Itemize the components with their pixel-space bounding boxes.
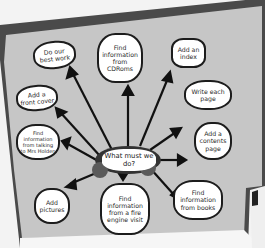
node-books: Find information from books: [173, 180, 223, 220]
node-label: Add an index: [175, 46, 202, 60]
node-mrs-holden: Find information from talking to Mrs Hol…: [16, 124, 60, 160]
node-label: Write each page: [188, 88, 228, 102]
node-label: Find information from books: [177, 189, 219, 211]
node-label: Find information from a fire engine visi…: [104, 195, 146, 224]
node-label: Add pictures: [38, 199, 66, 213]
node-label: Find information from CDRoms: [101, 44, 139, 73]
node-contents: Add a contents page: [194, 122, 232, 160]
node-label: Add a front cover: [19, 89, 54, 106]
poster-board: What must we do? Do our best work Find i…: [0, 0, 265, 248]
node-label: Do our best work: [36, 46, 72, 64]
center-node: What must we do?: [102, 149, 156, 171]
node-fire-engine: Find information from a fire engine visi…: [100, 183, 150, 235]
node-label: Find information from talking to Mrs Hol…: [20, 130, 56, 154]
node-index: Add an index: [171, 38, 206, 68]
node-pictures: Add pictures: [34, 188, 70, 224]
node-cdroms: Find information from CDRoms: [97, 33, 143, 83]
center-node-label: What must we do?: [102, 152, 156, 168]
node-write-page: Write each page: [184, 80, 232, 110]
node-label: Add a contents page: [198, 130, 228, 152]
